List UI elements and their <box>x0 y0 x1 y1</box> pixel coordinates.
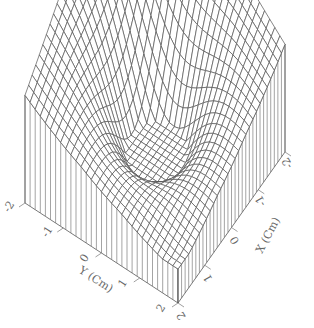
y-tick-label: -2 <box>1 199 18 215</box>
y-axis-label: Y (Cm) <box>76 263 116 295</box>
x-tick-label: 0 <box>227 234 242 247</box>
x-tick-mark <box>178 303 184 307</box>
x-axis-label: X (Cm) <box>253 215 283 255</box>
x-tick-label: 1 <box>201 272 216 285</box>
y-tick-mark <box>172 303 178 307</box>
x-tick-mark <box>232 228 238 232</box>
y-tick-label: 2 <box>154 302 169 315</box>
y-tick-mark <box>19 203 25 207</box>
y-tick-mark <box>57 228 63 232</box>
y-tick-label: -1 <box>39 224 56 240</box>
y-tick-label: 0 <box>77 252 92 265</box>
y-tick-label: 1 <box>115 277 130 290</box>
x-tick-mark <box>205 265 211 269</box>
x-tick-label: 2 <box>174 309 189 322</box>
y-tick-mark <box>96 253 102 257</box>
y-tick-mark <box>134 278 140 282</box>
surface-plot: -2-1012 -2-1012 Y (Cm) X (Cm) <box>0 0 314 328</box>
